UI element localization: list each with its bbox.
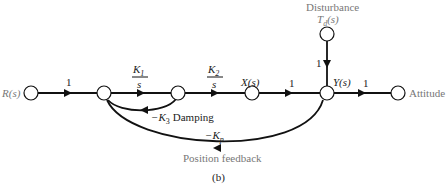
svg-text:K1: K1 [132,63,144,78]
gain-td: 1 [316,57,322,69]
y-label: Y(s) [333,76,351,89]
svg-text:s: s [137,78,141,90]
gain-k1: K1 s [132,63,148,90]
gain-x-y: 1 [289,77,295,89]
node-summing [97,86,111,100]
output-label: Attitude [409,87,445,99]
disturbance-title: Disturbance [306,1,359,13]
input-label: R(s) [1,87,21,100]
node-input [24,86,38,100]
gain-r: 1 [66,76,72,88]
node-x [245,86,259,100]
svg-text:s: s [212,78,216,90]
node-output [391,86,405,100]
signal-flow-graph: R(s) 1 K1 s K2 s X(s) 1 Y(s) 1 Attitude … [0,0,446,185]
node-intermediate [171,86,185,100]
figure-caption: (b) [212,171,225,184]
gain-k2: K2 s [207,63,223,90]
damping-label: −K3Damping [151,111,214,126]
node-y [320,86,334,100]
gain-y-out: 1 [363,77,369,89]
svg-text:K2: K2 [207,63,219,78]
feedback-label: Position feedback [183,152,262,164]
node-disturbance [320,27,334,41]
x-label: X(s) [240,76,260,89]
disturbance-signal: Td(s) [317,13,339,28]
